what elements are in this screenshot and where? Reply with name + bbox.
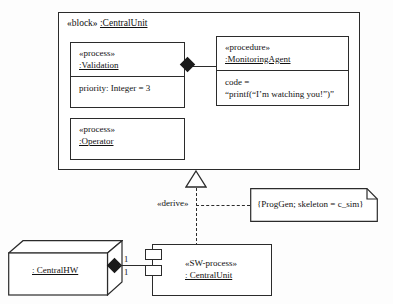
code-value: “printf(“I’m watching you!”)” xyxy=(225,88,341,100)
part-monitoring-agent-header: «procedure» :MonitoringAgent xyxy=(217,37,348,70)
code-label: code = xyxy=(225,76,341,88)
component-tab-top-icon xyxy=(145,249,162,260)
part-validation-stereotype: «process» xyxy=(79,48,177,60)
note-progGen[interactable]: {ProgGen; skeleton = c_sim} xyxy=(250,188,378,222)
generalization-triangle-icon xyxy=(185,170,207,188)
part-monitoring-agent[interactable]: «procedure» :MonitoringAgent code = “pri… xyxy=(216,36,349,106)
part-validation-attribute: priority: Integer = 3 xyxy=(71,76,184,98)
part-operator-name: :Operator xyxy=(79,136,177,148)
component-sw-central-unit-label: «SW-process» : CentralUnit xyxy=(185,257,237,281)
component-sw-central-unit[interactable]: «SW-process» : CentralUnit xyxy=(152,244,272,296)
node-central-hw-label: : CentralHW xyxy=(32,265,78,275)
component-stereotype: «SW-process» xyxy=(185,257,237,269)
derive-dependency-line-horizontal xyxy=(196,205,250,206)
part-validation-name: :Validation xyxy=(79,60,177,72)
part-operator[interactable]: «process» :Operator xyxy=(70,118,185,160)
part-operator-header: «process» :Operator xyxy=(71,119,184,152)
derive-label: «derive» xyxy=(157,198,189,208)
uml-diagram-canvas: «block» :CentralUnit «process» :Validati… xyxy=(0,0,393,304)
block-stereotype: «block» xyxy=(67,18,98,28)
part-monitoring-agent-name: :MonitoringAgent xyxy=(225,54,341,66)
multiplicity-sw: 1 xyxy=(124,268,128,277)
component-tab-bottom-icon xyxy=(145,265,162,276)
block-name: :CentralUnit xyxy=(100,18,148,28)
composition-line-validation-monitoring xyxy=(192,66,216,67)
part-operator-stereotype: «process» xyxy=(79,124,177,136)
note-text: {ProgGen; skeleton = c_sim} xyxy=(257,199,363,209)
multiplicity-hw: 1 xyxy=(124,255,128,264)
part-monitoring-agent-code: code = “printf(“I’m watching you!”)” xyxy=(217,70,348,104)
block-central-unit-header: «block» :CentralUnit xyxy=(67,17,147,29)
component-name: : CentralUnit xyxy=(185,269,237,281)
part-validation[interactable]: «process» :Validation priority: Integer … xyxy=(70,42,185,108)
part-monitoring-agent-stereotype: «procedure» xyxy=(225,42,341,54)
node-central-hw[interactable]: : CentralHW xyxy=(8,240,123,296)
derive-dependency-line-vertical xyxy=(196,188,197,246)
part-validation-header: «process» :Validation xyxy=(71,43,184,76)
